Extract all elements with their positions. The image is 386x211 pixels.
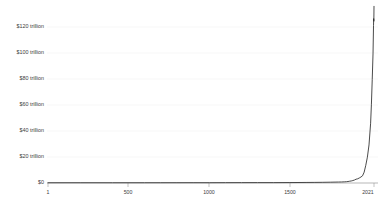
x-axis-tick-marks [48, 183, 374, 187]
x-tick-label-1500: 1500 [284, 189, 296, 195]
series-line-world-gdp [48, 6, 374, 182]
x-tick-label-1: 1 [47, 189, 50, 195]
x-tick-label-2021: 2021 [362, 189, 374, 195]
y-tick-label-0: $0 [38, 179, 44, 185]
y-tick-label-100: $100 trillion [16, 49, 44, 55]
y-tick-label-40: $40 trillion [19, 127, 44, 133]
y-axis-tick-labels: $120 trillion $100 trillion $80 trillion… [16, 23, 44, 185]
y-tick-label-120: $120 trillion [16, 23, 44, 29]
y-tick-label-20: $20 trillion [19, 153, 44, 159]
x-axis-tick-labels: 1 500 1000 1500 2021 [47, 189, 374, 195]
line-chart: $120 trillion $100 trillion $80 trillion… [0, 0, 386, 211]
gridlines [47, 27, 378, 157]
x-tick-label-1000: 1000 [203, 189, 215, 195]
x-tick-label-500: 500 [124, 189, 133, 195]
y-tick-label-80: $80 trillion [19, 75, 44, 81]
chart-container: $120 trillion $100 trillion $80 trillion… [0, 0, 386, 211]
y-tick-label-60: $60 trillion [19, 101, 44, 107]
